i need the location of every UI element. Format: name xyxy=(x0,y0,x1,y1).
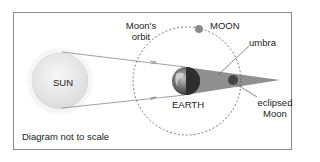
umbra-leader-line xyxy=(218,46,249,75)
moons-orbit-label: Moon's orbit xyxy=(124,20,158,42)
moon-label: MOON xyxy=(210,20,240,31)
moon-icon xyxy=(195,25,203,33)
sun-label: SUN xyxy=(53,77,73,88)
not-to-scale-note: Diagram not to scale xyxy=(22,131,109,142)
eclipsed-moon-icon xyxy=(228,75,238,85)
umbra-label: umbra xyxy=(249,37,276,48)
earth-label: EARTH xyxy=(172,99,204,110)
earth-icon xyxy=(172,67,200,95)
eclipsed-moon-label: eclipsed Moon xyxy=(255,97,295,119)
eclipsed-moon-leader-line xyxy=(236,84,257,97)
